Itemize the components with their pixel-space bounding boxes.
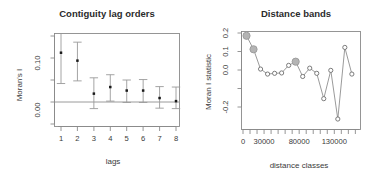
data-point (60, 51, 63, 54)
data-point-highlighted (243, 32, 250, 39)
x-tick-labels-right: 0 30000 80000 130000 (241, 137, 347, 146)
error-bar (172, 87, 180, 109)
chart-panel-contiguity-lag-orders: Contiguity lag orders Moran's I lags 0.1… (0, 0, 192, 180)
chart-panel-distance-bands: Distance bands Moran I statistic distanc… (193, 0, 385, 180)
data-point (308, 66, 312, 70)
data-point (125, 89, 128, 92)
data-point-highlighted (292, 58, 299, 65)
y-tick-label-left-1: 0.00 (33, 103, 42, 118)
x-tick-label-left-2: 3 (92, 134, 96, 143)
x-tick-label-left-6: 7 (157, 134, 161, 143)
x-tick-label-left-3: 4 (108, 134, 112, 143)
y-tick-label-right-0: 0.2 (221, 28, 230, 39)
y-axis-title-right: Moran I statistic (204, 54, 213, 110)
data-point (287, 63, 291, 67)
x-axis-left (58, 127, 176, 132)
data-point (258, 67, 262, 71)
x-axis-right (243, 130, 359, 135)
data-point (343, 45, 347, 49)
data-point (158, 97, 161, 100)
y-axis-title-left: Moran's I (15, 69, 24, 102)
data-point (93, 92, 96, 95)
y-tick-label-right-1: 0.1 (221, 46, 230, 57)
x-tick-label-right-2: 80000 (289, 137, 310, 146)
data-point-highlighted (250, 46, 257, 53)
x-tick-label-right-3: 130000 (322, 137, 347, 146)
data-point (322, 97, 326, 101)
data-point (336, 117, 340, 121)
x-tick-labels-left: 1 2 3 4 5 6 7 8 (59, 134, 178, 143)
data-point (265, 72, 269, 76)
data-point (315, 71, 319, 75)
error-bar (57, 34, 65, 84)
series-line-right (247, 36, 352, 119)
data-points-right (243, 32, 354, 121)
x-tick-label-left-0: 1 (59, 134, 63, 143)
y-axis-right (238, 33, 242, 107)
data-point (301, 74, 305, 78)
data-point (142, 89, 145, 92)
x-tick-label-right-1: 30000 (253, 137, 274, 146)
x-axis-title-right: distance classes (270, 161, 329, 170)
data-point (273, 71, 277, 75)
y-tick-label-right-3: -0.2 (221, 100, 230, 113)
data-point (350, 72, 354, 76)
chart-title-left: Contiguity lag orders (59, 8, 155, 19)
y-tick-label-right-2: 0.0 (221, 65, 230, 76)
x-tick-label-left-5: 6 (141, 134, 145, 143)
chart-title-right: Distance bands (261, 8, 331, 19)
figure-canvas: Contiguity lag orders Moran's I lags 0.1… (0, 0, 385, 180)
y-tick-label-left-0: 0.10 (33, 56, 42, 71)
y-axis-left (51, 36, 55, 124)
error-bars-left (57, 34, 180, 109)
x-tick-label-left-4: 5 (125, 134, 129, 143)
data-point (280, 71, 284, 75)
data-point (109, 86, 112, 89)
x-tick-label-left-1: 2 (75, 134, 79, 143)
x-axis-title-left: lags (106, 157, 121, 166)
x-tick-label-right-0: 0 (241, 137, 245, 146)
data-point (329, 68, 333, 72)
plot-frame-left (55, 34, 180, 127)
data-point (175, 100, 178, 103)
x-tick-label-left-7: 8 (174, 134, 178, 143)
data-point (76, 59, 79, 62)
